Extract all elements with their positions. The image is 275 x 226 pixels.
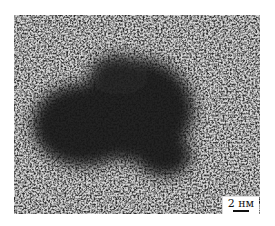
micrograph-texture (14, 15, 260, 214)
scale-bar-line (233, 210, 249, 212)
scale-bar: 2 нм (222, 196, 259, 214)
micrograph-image (14, 15, 260, 214)
scale-bar-label: 2 нм (223, 197, 259, 210)
